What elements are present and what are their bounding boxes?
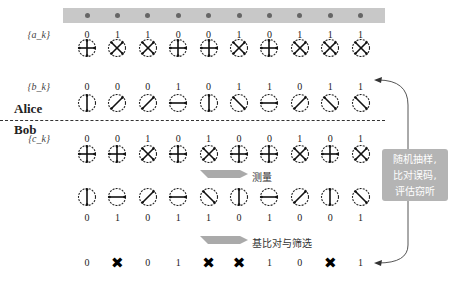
b-bit: 1 [320,81,340,92]
sifted-bit: 0 [138,257,158,268]
sifted-bit: 1 [259,257,279,268]
diag-polarization-icon [107,93,127,113]
c-bit: 0 [168,133,188,144]
measure-step-label: 测量 [252,169,272,184]
photon-dot [115,13,120,18]
horizontal-polarization-icon [168,93,188,113]
antidiag-polarization-icon [229,93,249,113]
photon-dot [328,13,333,18]
horizontal-polarization-icon [107,187,127,207]
b-bit: 1 [168,81,188,92]
antidiag-polarization-icon [320,93,340,113]
c-bit: 0 [77,133,97,144]
c-bit: 0 [107,133,127,144]
vertical-polarization-icon [77,187,97,207]
c-bit: 1 [138,133,158,144]
alice-bob-divider [0,120,385,121]
measured-bit: 1 [107,212,127,223]
cross-basis-icon [199,144,219,164]
plus-basis-icon [199,38,219,58]
sampling-note: 随机抽样, 比对误码, 评估窃听 [382,149,448,201]
b-bit: 0 [290,81,310,92]
cross-basis-icon [138,144,158,164]
measured-bit: 0 [138,212,158,223]
photon-dot [267,13,272,18]
discard-icon: ✖ [199,254,219,272]
photon-source-bar [63,8,385,23]
a-sequence-label: {a_k} [20,29,50,40]
diag-polarization-icon [290,93,310,113]
cross-basis-icon [229,38,249,58]
antidiag-polarization-icon [199,187,219,207]
discard-icon: ✖ [320,254,340,272]
measured-bit: 0 [290,212,310,223]
measured-bit: 1 [259,212,279,223]
bob-label: Bob [14,122,36,138]
sifted-bit: 1 [351,257,371,268]
diag-polarization-icon [290,187,310,207]
measured-bit: 1 [351,212,371,223]
measured-bit: 0 [77,212,97,223]
discard-icon: ✖ [107,254,127,272]
measured-bit: 1 [199,212,219,223]
b-bit: 0 [138,81,158,92]
sifted-bit: 0 [290,257,310,268]
plus-basis-icon [259,38,279,58]
b-bit: 1 [259,81,279,92]
sift-arrow-icon [200,234,250,248]
photon-dot [176,13,181,18]
plus-basis-icon [168,38,188,58]
b-sequence-label: {b_k} [20,81,50,92]
cross-basis-icon [138,38,158,58]
b-bit: 0 [77,81,97,92]
horizontal-polarization-icon [259,187,279,207]
b-bit: 0 [107,81,127,92]
measured-bit: 0 [229,212,249,223]
vertical-polarization-icon [229,187,249,207]
cross-basis-icon [320,38,340,58]
cross-basis-icon [107,38,127,58]
plus-basis-icon [259,144,279,164]
vertical-polarization-icon [77,93,97,113]
plus-basis-icon [168,144,188,164]
plus-basis-icon [229,144,249,164]
antidiag-polarization-icon [351,93,371,113]
photon-dot [85,13,90,18]
plus-basis-icon [107,144,127,164]
measure-arrow-icon [200,168,250,182]
cross-basis-icon [290,144,310,164]
c-bit: 0 [320,133,340,144]
b-bit: 0 [199,81,219,92]
note-line-3: 评估窃听 [382,184,448,200]
c-bit: 0 [259,133,279,144]
b-bit: 1 [229,81,249,92]
c-bit: 0 [229,133,249,144]
c-bit: 1 [199,133,219,144]
plus-basis-icon [77,144,97,164]
cross-basis-icon [290,38,310,58]
horizontal-polarization-icon [168,187,188,207]
diag-polarization-icon [138,93,158,113]
horizontal-polarization-icon [259,93,279,113]
c-bit: 1 [290,133,310,144]
alice-label: Alice [14,101,42,117]
antidiag-polarization-icon [351,187,371,207]
plus-basis-icon [320,144,340,164]
discard-icon: ✖ [229,254,249,272]
diag-polarization-icon [138,187,158,207]
vertical-polarization-icon [320,187,340,207]
note-line-1: 随机抽样, [382,152,448,168]
note-line-2: 比对误码, [382,168,448,184]
c-bit: 1 [351,133,371,144]
b-bit: 1 [351,81,371,92]
measured-bit: 0 [320,212,340,223]
measured-bit: 1 [168,212,188,223]
cross-basis-icon [351,38,371,58]
sifted-bit: 1 [168,257,188,268]
sifted-bit: 0 [77,257,97,268]
photon-dot [237,13,242,18]
cross-basis-icon [351,144,371,164]
vertical-polarization-icon [199,93,219,113]
sift-step-label: 基比对与筛选 [252,235,312,250]
plus-basis-icon [77,38,97,58]
